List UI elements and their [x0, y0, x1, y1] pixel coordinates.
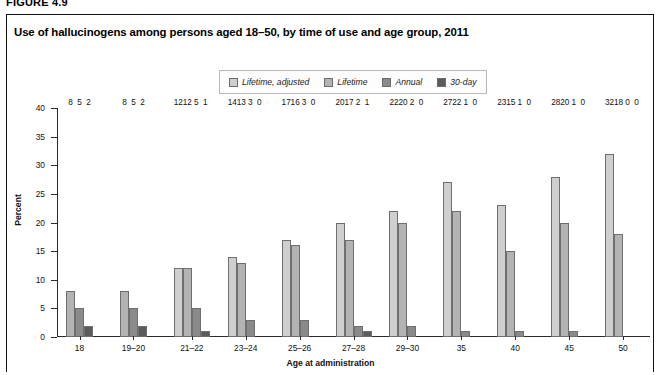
bar-annual [461, 331, 470, 337]
bar-value-label: 3 [302, 99, 307, 108]
bar-value-label: 0 [634, 99, 639, 108]
x-tick-label: 35 [436, 343, 486, 353]
bar-value-label: 20 [560, 99, 569, 108]
bar-value-label: 20 [335, 99, 344, 108]
bar-wrapper: 32 [605, 108, 614, 337]
bar-wrapper: 0 [578, 108, 587, 337]
bar-wrapper: 0 [470, 108, 479, 337]
bar-value-label: 0 [257, 99, 262, 108]
bar-lifetime-adjusted [389, 211, 398, 337]
bar-value-label: 15 [506, 99, 515, 108]
bar-value-label: 27 [443, 99, 452, 108]
legend-label-lifetime-adjusted: Lifetime, adjusted [242, 77, 309, 87]
x-tick [407, 336, 408, 340]
x-tick-label: 19–20 [108, 343, 158, 353]
bar-group: 141330 [219, 108, 273, 337]
bar-value-label: 5 [194, 99, 199, 108]
y-tick-label-40: 40 [5, 103, 45, 113]
bar-group-bars: 282010 [551, 108, 587, 337]
x-tick [80, 336, 81, 340]
x-tick [192, 336, 193, 340]
bar-lifetime-adjusted [174, 268, 183, 337]
legend-item-lifetime-adjusted: Lifetime, adjusted [229, 77, 309, 87]
bar-wrapper: 20 [560, 108, 569, 337]
x-tick [133, 336, 134, 340]
bar-wrapper: 5 [75, 108, 84, 337]
bar-group-bars: 141330 [228, 108, 264, 337]
bar-group: 282010 [542, 108, 596, 337]
bar-lifetime-adjusted [282, 240, 291, 337]
x-tick-label: 21–22 [167, 343, 217, 353]
bar-lifetime [452, 211, 461, 337]
bar-group-bars: 201721 [336, 108, 372, 337]
legend-item-lifetime: Lifetime [324, 77, 367, 87]
bar-wrapper: 2 [407, 108, 416, 337]
bar-value-label: 2 [86, 99, 91, 108]
bar-group: 201721 [327, 108, 381, 337]
bar-group: 272210 [434, 108, 488, 337]
y-tick-label-0: 0 [5, 332, 45, 342]
bar-value-label: 2 [410, 99, 415, 108]
bar-annual [515, 331, 524, 337]
bar-group: 222020 [380, 108, 434, 337]
bar-lifetime [66, 291, 75, 337]
x-tick-label: 45 [544, 343, 594, 353]
bar-value-label: 32 [605, 99, 614, 108]
bar-30-day [138, 326, 147, 337]
x-tick [515, 336, 516, 340]
bar-wrapper: 23 [497, 108, 506, 337]
bar-wrapper: 5 [129, 108, 138, 337]
bar-lifetime [237, 263, 246, 337]
bar-wrapper: 22 [389, 108, 398, 337]
bar-wrapper: 0 [623, 108, 632, 337]
figure-label: FIGURE 4.9 [6, 0, 68, 8]
bar-wrapper: 0 [632, 108, 641, 337]
bar-lifetime [120, 291, 129, 337]
bar-value-label: 17 [344, 99, 353, 108]
x-tick-label: 29–30 [382, 343, 432, 353]
legend-item-thirty-day: 30-day [437, 77, 476, 87]
bar-wrapper: 13 [237, 108, 246, 337]
x-axis-title: Age at administration [0, 358, 661, 368]
bar-lifetime [183, 268, 192, 337]
bar-30-day [201, 331, 210, 337]
bar-value-label: 2 [140, 99, 145, 108]
bar-lifetime-adjusted [605, 154, 614, 337]
bar-group: 231510 [488, 108, 542, 337]
bar-lifetime [345, 240, 354, 337]
bar-wrapper: 8 [120, 108, 129, 337]
bar-value-label: 0 [473, 99, 478, 108]
bar-value-label: 12 [174, 99, 183, 108]
bar-wrapper: 20 [398, 108, 407, 337]
bar-value-label: 17 [282, 99, 291, 108]
bar-value-label: 23 [497, 99, 506, 108]
legend-label-lifetime: Lifetime [337, 77, 367, 87]
bar-value-label: 12 [183, 99, 192, 108]
x-tick [569, 336, 570, 340]
bar-value-label: 1 [517, 99, 522, 108]
bar-lifetime [614, 234, 623, 337]
bar-lifetime [291, 245, 300, 337]
bar-value-label: 22 [389, 99, 398, 108]
x-tick-label: 23–24 [221, 343, 271, 353]
bar-group: 121251 [165, 108, 219, 337]
x-tick [461, 336, 462, 340]
legend-swatch-thirty-day [437, 78, 446, 87]
bar-lifetime-adjusted [497, 205, 506, 337]
bar-wrapper: 17 [282, 108, 291, 337]
bar-wrapper: 1 [461, 108, 470, 337]
bar-value-label: 5 [131, 99, 136, 108]
bar-annual [569, 331, 578, 337]
bar-annual [192, 308, 201, 337]
bar-value-label: 16 [291, 99, 300, 108]
bar-group: 852 [57, 108, 111, 337]
bar-value-label: 0 [419, 99, 424, 108]
legend-swatch-lifetime-adjusted [229, 78, 238, 87]
x-tick-label: 25–26 [275, 343, 325, 353]
bar-value-label: 5 [77, 99, 82, 108]
bar-wrapper: 27 [443, 108, 452, 337]
bar-value-label: 0 [580, 99, 585, 108]
bar-wrapper: 20 [336, 108, 345, 337]
y-tick-label-5: 5 [5, 303, 45, 313]
bar-value-label: 0 [311, 99, 316, 108]
